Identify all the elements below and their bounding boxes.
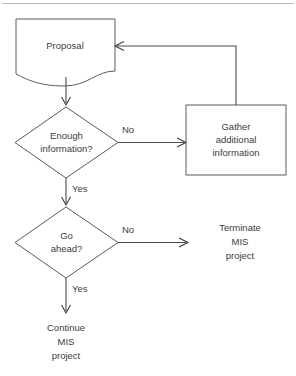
continue-node-label-line2: MIS (58, 336, 75, 347)
gather-node-label-line3: information (213, 147, 260, 158)
flowchart-container: Proposal Enough information? Gather ====… (0, 0, 296, 376)
flowchart-canvas: Proposal Enough information? Gather ====… (0, 0, 296, 376)
edge-goahead-no-label: No (122, 224, 134, 235)
edge-goahead-yes-label: Yes (72, 283, 88, 294)
gather-node-label-line1: Gather (221, 121, 250, 132)
continue-node-label-line1: Continue (47, 322, 85, 333)
enough-information-node-label-line1: Enough (50, 130, 83, 141)
go-ahead-node-label-line2: ahead? (51, 243, 83, 254)
edge-gather-to-proposal-line (117, 46, 236, 105)
enough-information-node-label-line2: information? (40, 143, 92, 154)
edge-enough-no-label: No (122, 124, 134, 135)
continue-node-label-line3: project (52, 350, 81, 361)
gather-node-label-line2: additional (216, 134, 257, 145)
go-ahead-node-label-line1: Go (60, 230, 73, 241)
proposal-node-label: Proposal (46, 40, 84, 51)
terminate-node-label-line1: Terminate (219, 222, 261, 233)
proposal-node-shape (16, 19, 115, 86)
terminate-node-label-line2: MIS (232, 236, 249, 247)
terminate-node-label-line3: project (226, 250, 255, 261)
edge-enough-yes-label: Yes (72, 183, 88, 194)
